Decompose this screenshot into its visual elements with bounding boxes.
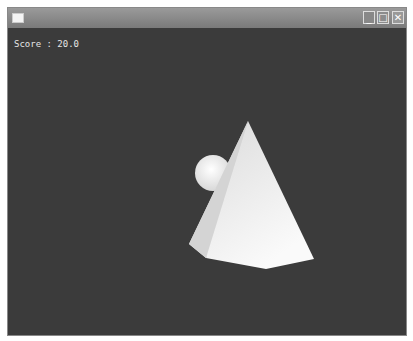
game-window: _ □ ✕ Score : 20.0	[7, 7, 407, 336]
scene-canvas	[1, 1, 413, 341]
game-viewport[interactable]: Score : 20.0	[8, 28, 406, 335]
pyramid-object	[189, 121, 314, 269]
